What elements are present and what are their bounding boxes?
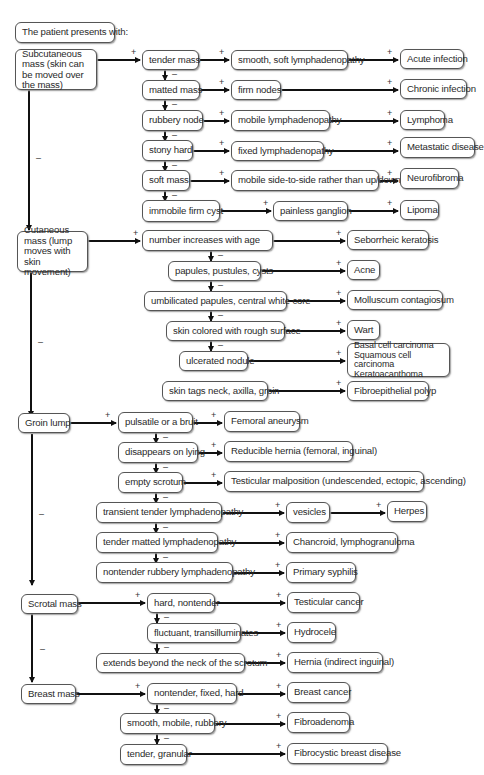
- diagnosis-box: Fibroepithelial polyp: [347, 381, 429, 401]
- finding-label: rubbery node: [149, 115, 204, 126]
- category-scrotal-mass: Scrotal mass: [21, 594, 78, 614]
- positive-sign: +: [276, 742, 281, 751]
- finding-label: papules, pustules, cysts: [175, 266, 273, 277]
- finding-box: matted mass: [142, 80, 200, 100]
- diagnosis-label: Fibroadenoma: [294, 717, 354, 728]
- finding-label: tender, granular: [127, 749, 192, 760]
- diagnosis-label: Lymphoma: [407, 115, 453, 126]
- positive-sign: +: [387, 78, 392, 87]
- intermediate-label: smooth, soft lymphadenopathy: [238, 55, 364, 66]
- finding-box: tender mass: [142, 50, 199, 70]
- finding-label: nontender, fixed, hard: [154, 688, 244, 699]
- intermediate-label: mobile lymphadenopathy: [238, 115, 341, 126]
- finding-box: papules, pustules, cysts: [168, 261, 261, 281]
- finding-label: empty scrotum: [125, 477, 186, 488]
- diagnosis-box: Basal cell carcinoma Squamous cell carci…: [347, 343, 450, 377]
- diagnosis-box: Wart: [347, 320, 380, 340]
- finding-label: matted mass: [149, 85, 202, 96]
- positive-sign: +: [336, 259, 341, 268]
- positive-sign: +: [336, 289, 341, 298]
- positive-sign: +: [276, 621, 281, 630]
- positive-sign: +: [276, 591, 281, 600]
- diagnosis-label: Wart: [354, 325, 373, 336]
- finding-label: tender matted lymphadenopathy: [103, 537, 236, 548]
- finding-label: ulcerated nodule: [186, 356, 255, 367]
- negative-sign: –: [218, 311, 223, 320]
- finding-box: nontender, fixed, hard: [147, 683, 237, 704]
- diagnosis-label: Hernia (indirect inguinal): [294, 657, 394, 668]
- positive-sign: +: [276, 651, 281, 660]
- finding-box: skin tags neck, axilla, groin: [162, 381, 268, 401]
- category-label: Scrotal mass: [28, 599, 82, 610]
- diagnosis-box: Fibrocystic breast disease: [287, 743, 388, 764]
- diagnosis-box: Femoral aneurysm: [224, 411, 300, 432]
- diagnosis-label: Chronic infection: [407, 84, 476, 95]
- finding-box: stony hard: [142, 140, 193, 161]
- finding-box: immobile firm cyst: [142, 200, 220, 222]
- positive-sign: +: [275, 531, 280, 540]
- intermediate-label: fixed lymphadenopathy: [238, 146, 334, 157]
- diagnosis-label: Breast cancer: [294, 687, 351, 698]
- negative-sign: –: [172, 191, 177, 200]
- intermediate-box: mobile lymphadenopathy: [231, 110, 330, 131]
- negative-sign: –: [172, 100, 177, 109]
- diagnosis-box: Seborrheic keratosis: [347, 230, 429, 250]
- positive-sign: +: [376, 501, 381, 510]
- positive-sign: +: [336, 349, 341, 358]
- diagnosis-label: Primary syphilis: [293, 567, 358, 578]
- category-breast-mass: Breast mass: [21, 684, 76, 704]
- diagnosis-label: Testicular malposition (undescended, ect…: [231, 476, 466, 487]
- finding-box: fluctuant, transilluminates: [147, 623, 241, 643]
- negative-sign: –: [38, 338, 43, 347]
- positive-sign: +: [336, 319, 341, 328]
- diagnosis-label: Herpes: [394, 506, 424, 517]
- intermediate-label: painless ganglion: [280, 206, 352, 217]
- diagnosis-box: Acne: [347, 260, 380, 280]
- negative-sign: –: [163, 493, 168, 502]
- positive-sign: +: [135, 682, 140, 691]
- intermediate-box: mobile side-to-side rather than up/down: [231, 170, 379, 191]
- diagnosis-box: Hernia (indirect inguinal): [287, 652, 383, 673]
- positive-sign: +: [387, 199, 392, 208]
- negative-sign: –: [218, 251, 223, 260]
- finding-box: tender, granular: [120, 744, 187, 765]
- negative-sign: –: [163, 523, 168, 532]
- positive-sign: +: [263, 199, 268, 208]
- diagnosis-label: Femoral aneurysm: [231, 416, 309, 427]
- finding-label: disappears on lying: [125, 447, 205, 458]
- finding-box: pulsatile or a bruit: [118, 412, 193, 433]
- diagnosis-label: Fibroepithelial polyp: [354, 386, 436, 397]
- negative-sign: –: [172, 161, 177, 170]
- positive-sign: +: [219, 139, 224, 148]
- diagnosis-label: Chancroid, lymphogranuloma: [293, 537, 414, 548]
- positive-sign: +: [219, 78, 224, 87]
- finding-box: soft mass: [142, 170, 190, 191]
- positive-sign: +: [211, 441, 216, 450]
- finding-label: nontender rubbery lymphadenopathy: [103, 567, 255, 578]
- finding-label: number increases with age: [149, 235, 260, 246]
- positive-sign: +: [211, 411, 216, 420]
- intermediate-label: mobile side-to-side rather than up/down: [238, 175, 401, 186]
- positive-sign: +: [387, 169, 392, 178]
- diagnosis-box: Chancroid, lymphogranuloma: [286, 532, 398, 553]
- diagnosis-label: Metastatic disease: [407, 142, 484, 153]
- diagnosis-label: Fibrocystic breast disease: [294, 748, 401, 759]
- negative-sign: –: [172, 131, 177, 140]
- negative-sign: –: [163, 553, 168, 562]
- diagnosis-label: Hydrocele: [294, 627, 336, 638]
- finding-label: hard, nontender: [154, 598, 220, 609]
- diagnosis-label: Testicular cancer: [294, 597, 363, 608]
- finding-label: stony hard: [149, 145, 192, 156]
- finding-box: nontender rubbery lymphadenopathy: [96, 562, 233, 583]
- diagnosis-label: Basal cell carcinoma Squamous cell carci…: [354, 341, 443, 379]
- category-label: Groin lump: [25, 418, 70, 429]
- finding-box: transient tender lymphadenopathy: [96, 502, 222, 523]
- negative-sign: –: [218, 281, 223, 290]
- finding-box: hard, nontender: [147, 593, 215, 613]
- diagnosis-label: Reducible hernia (femoral, inguinal): [231, 446, 377, 457]
- negative-sign: –: [39, 510, 44, 519]
- finding-label: immobile firm cyst: [149, 206, 223, 217]
- diagnosis-box: Lymphoma: [400, 110, 445, 130]
- negative-sign: –: [40, 645, 45, 654]
- positive-sign: +: [131, 48, 136, 57]
